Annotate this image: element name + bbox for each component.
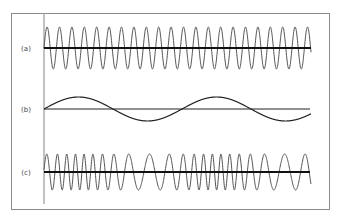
figure-border [12,14,330,210]
panel-label-c: (c) [21,169,31,177]
fm-modulation-diagram: (a) (b) (c) [0,0,337,220]
panel-label-b: (b) [21,106,31,114]
panel-label-a: (a) [21,45,31,53]
